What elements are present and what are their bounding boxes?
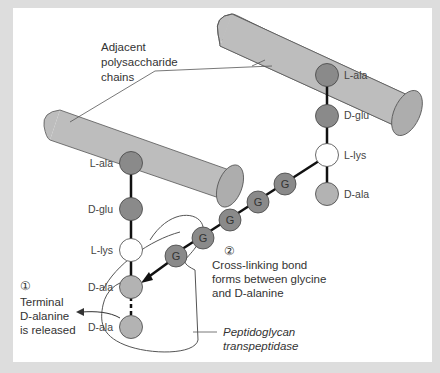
residue-label: L-ala (90, 157, 114, 169)
residue-l-ala (120, 152, 143, 175)
glycine-label: G (172, 250, 181, 262)
glycine-label: G (226, 214, 235, 226)
left-polysaccharide-chain (44, 110, 249, 211)
step1-number: ① (20, 280, 31, 292)
residue-label: L-lys (344, 149, 366, 161)
residue-d-glu (316, 105, 339, 128)
residue-terminal-d-ala (120, 316, 143, 339)
residue-label: D-ala (88, 281, 113, 293)
residue-label: D-glu (344, 109, 369, 121)
residue-label: D-ala (344, 188, 369, 200)
residue-d-ala (120, 276, 143, 299)
step2-number: ② (224, 245, 235, 257)
chains-label-leaders (70, 60, 272, 122)
glycine-label: G (254, 196, 263, 208)
enzyme-label: Peptidoglycan transpeptidase (223, 326, 298, 352)
residue-label: L-lys (91, 244, 113, 256)
step1-text: Terminal D-alanine is released (20, 296, 76, 336)
residue-label: D-ala (88, 321, 113, 333)
residue-l-lys (120, 239, 143, 262)
glycine-label: G (199, 232, 208, 244)
residue-label: D-glu (88, 203, 113, 215)
residue-label: L-ala (344, 69, 368, 81)
residue-d-glu (120, 198, 143, 221)
residue-l-ala (316, 64, 339, 87)
glycine-label: G (281, 178, 290, 190)
release-arrow (76, 308, 120, 318)
peptidoglycan-crosslink-diagram: L-ala D-glu L-lys D-ala G G G G G L-ala … (0, 0, 440, 373)
transpeptidase-outline (102, 215, 204, 352)
residue-l-lys (316, 144, 339, 167)
left-chain-residues: L-ala D-glu L-lys D-ala D-ala (88, 152, 143, 339)
chains-label: Adjacent polysaccharide chains (101, 41, 181, 83)
step2-text: Cross-linking bond forms between glycine… (212, 259, 330, 299)
residue-d-ala (316, 183, 339, 206)
